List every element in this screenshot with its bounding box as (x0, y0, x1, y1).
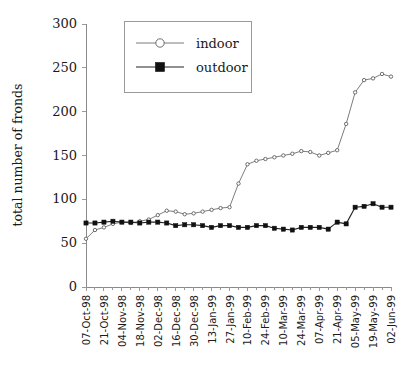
data-point-outdoor (236, 225, 240, 229)
x-axis-tick-label: 02-Jun-99 (386, 295, 397, 344)
data-point-outdoor (218, 224, 222, 228)
data-point-outdoor (263, 224, 267, 228)
data-point-indoor (237, 182, 240, 185)
data-point-outdoor (201, 224, 205, 228)
data-point-outdoor (174, 224, 178, 228)
data-point-outdoor (165, 221, 169, 225)
data-point-outdoor (254, 224, 258, 228)
data-point-outdoor (281, 227, 285, 231)
x-axis-tick-label: 18-Nov-98 (135, 295, 146, 347)
data-point-indoor (192, 212, 195, 215)
x-axis-tick-label: 05-May-99 (350, 295, 361, 348)
data-point-outdoor (147, 220, 151, 224)
y-axis-tick-label: 150 (52, 148, 77, 163)
data-point-indoor (327, 151, 330, 154)
x-axis-tick-label: 10-Feb-99 (242, 295, 253, 345)
data-point-outdoor (227, 224, 231, 228)
fronds-line-chart: 050100150200250300 07-Oct-9821-Oct-9804-… (0, 0, 409, 381)
x-axis-tick-label: 07-Oct-98 (81, 295, 92, 345)
data-point-outdoor (111, 219, 115, 223)
data-point-indoor (309, 150, 312, 153)
y-axis-tick-label: 200 (52, 104, 77, 119)
data-point-indoor (335, 149, 338, 152)
data-point-indoor (183, 213, 186, 216)
data-point-indoor (300, 149, 303, 152)
y-axis-title: total number of fronds (10, 83, 25, 226)
data-point-outdoor (272, 226, 276, 230)
data-point-indoor (344, 122, 347, 125)
data-point-indoor (201, 210, 204, 213)
data-point-indoor (264, 157, 267, 160)
data-point-indoor (84, 237, 87, 240)
data-point-outdoor (326, 227, 330, 231)
data-point-outdoor (192, 223, 196, 227)
x-axis-tick-label: 04-Nov-98 (117, 295, 128, 347)
data-point-outdoor (156, 220, 160, 224)
y-axis-tick-label: 50 (60, 235, 77, 250)
data-point-outdoor (299, 225, 303, 229)
data-point-outdoor (93, 221, 97, 225)
x-axis-tick-label: 07-Apr-99 (314, 295, 325, 344)
data-point-outdoor (84, 221, 88, 225)
y-axis-tick-label: 250 (52, 60, 77, 75)
data-point-outdoor (335, 220, 339, 224)
chart-figure: 050100150200250300 07-Oct-9821-Oct-9804-… (0, 0, 409, 381)
data-point-outdoor (290, 228, 294, 232)
data-point-indoor (255, 159, 258, 162)
data-point-indoor (228, 206, 231, 209)
open-circle-marker-icon (156, 39, 164, 47)
data-point-indoor (273, 156, 276, 159)
data-point-indoor (353, 91, 356, 94)
data-point-outdoor (308, 225, 312, 229)
data-point-outdoor (362, 204, 366, 208)
data-point-outdoor (102, 220, 106, 224)
data-point-outdoor (120, 220, 124, 224)
legend-label-indoor: indoor (196, 36, 240, 51)
data-point-indoor (219, 206, 222, 209)
x-axis-tick-label: 16-Dec-98 (171, 295, 182, 347)
legend-label-outdoor: outdoor (196, 60, 248, 75)
x-axis-tick-label: 13-Jan-99 (207, 295, 218, 344)
data-point-outdoor (317, 225, 321, 229)
data-point-indoor (174, 210, 177, 213)
data-point-indoor (291, 152, 294, 155)
x-axis-tick-label: 21-Apr-99 (332, 295, 343, 344)
data-point-outdoor (380, 205, 384, 209)
x-axis-tick-label: 30-Dec-98 (189, 295, 200, 347)
y-axis-tick-label: 0 (69, 279, 77, 294)
data-point-indoor (282, 154, 285, 157)
x-axis-tick-label: 19-May-99 (368, 295, 379, 348)
data-point-outdoor (209, 225, 213, 229)
data-point-outdoor (344, 222, 348, 226)
data-point-outdoor (353, 205, 357, 209)
data-point-indoor (371, 77, 374, 80)
data-point-outdoor (371, 202, 375, 206)
data-point-outdoor (129, 220, 133, 224)
data-point-indoor (318, 154, 321, 157)
data-point-outdoor (183, 223, 187, 227)
data-point-indoor (210, 208, 213, 211)
legend-box (124, 21, 251, 92)
x-axis-tick-label: 24-Mar-99 (296, 295, 307, 346)
data-point-indoor (362, 78, 365, 81)
data-point-indoor (156, 213, 159, 216)
data-point-indoor (102, 226, 105, 229)
data-point-indoor (389, 75, 392, 78)
x-axis-tick-label: 10-Mar-99 (278, 295, 289, 346)
chart-legend: indooroutdoor (124, 21, 251, 92)
y-axis-tick-label: 100 (52, 191, 77, 206)
data-point-indoor (93, 228, 96, 231)
data-point-outdoor (389, 205, 393, 209)
x-axis-tick-label: 27-Jan-99 (225, 295, 236, 344)
x-axis-tick-label: 24-Feb-99 (260, 295, 271, 345)
data-point-indoor (165, 209, 168, 212)
filled-square-marker-icon (155, 62, 164, 71)
data-point-indoor (246, 163, 249, 166)
x-axis-tick-label: 02-Dec-98 (153, 295, 164, 347)
x-axis-tick-label: 21-Oct-98 (99, 295, 110, 345)
y-axis-tick-label: 300 (52, 16, 77, 31)
data-point-outdoor (138, 221, 142, 225)
data-point-outdoor (245, 225, 249, 229)
data-point-indoor (380, 72, 383, 75)
